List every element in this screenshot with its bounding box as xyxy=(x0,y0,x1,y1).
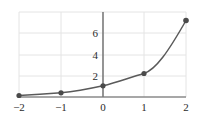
y-tick-label-6: 6 xyxy=(82,28,98,39)
data-point xyxy=(141,71,146,76)
x-tick-label-minus-2: −2 xyxy=(10,102,28,113)
y-tick-label-2: 2 xyxy=(82,71,98,82)
x-tick-label-minus-1: −1 xyxy=(52,102,70,113)
data-point xyxy=(183,18,189,24)
y-tick-label-4: 4 xyxy=(82,50,98,61)
data-point xyxy=(16,93,21,98)
x-tick-label-1: 1 xyxy=(135,102,153,113)
x-tick-label-2: 2 xyxy=(177,102,195,113)
data-point xyxy=(58,90,63,95)
x-tick-label-0: 0 xyxy=(94,102,112,113)
exponential-function-graph: 6 4 2 −2 −1 0 1 2 xyxy=(0,0,201,122)
data-point xyxy=(100,83,105,88)
